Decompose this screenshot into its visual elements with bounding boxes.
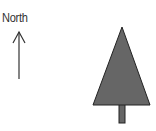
- tree-canopy: [93, 27, 150, 105]
- diagram-canvas: [0, 0, 156, 131]
- north-arrow-icon: [13, 32, 25, 79]
- tree-icon: [93, 27, 150, 123]
- tree-trunk: [119, 104, 125, 123]
